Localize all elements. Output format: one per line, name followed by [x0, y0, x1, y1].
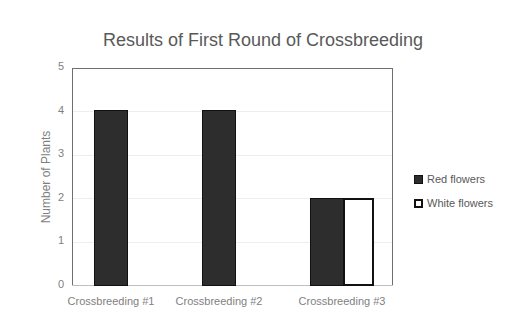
bar-white-crossbreeding-3	[343, 198, 374, 286]
x-tick-crossbreeding-2: Crossbreeding #2	[164, 295, 274, 307]
y-tick-5: 5	[44, 60, 64, 72]
legend-label: Red flowers	[427, 173, 485, 185]
y-tick-0: 0	[44, 278, 64, 290]
bar-red-crossbreeding-3	[310, 198, 344, 286]
red-swatch-icon	[414, 175, 423, 184]
white-swatch-icon	[414, 199, 423, 208]
y-tick-4: 4	[44, 104, 64, 116]
legend-item-red-flowers: Red flowers	[414, 167, 493, 191]
bar-red-crossbreeding-1	[94, 110, 128, 286]
x-tick-crossbreeding-3: Crossbreeding #3	[287, 295, 397, 307]
legend: Red flowers White flowers	[414, 167, 493, 215]
legend-label: White flowers	[427, 197, 493, 209]
y-axis-label: Number of Plants	[39, 117, 53, 237]
bar-red-crossbreeding-2	[202, 110, 236, 286]
x-tick-crossbreeding-1: Crossbreeding #1	[56, 295, 166, 307]
chart-title: Results of First Round of Crossbreeding	[0, 30, 526, 51]
legend-item-white-flowers: White flowers	[414, 191, 493, 215]
